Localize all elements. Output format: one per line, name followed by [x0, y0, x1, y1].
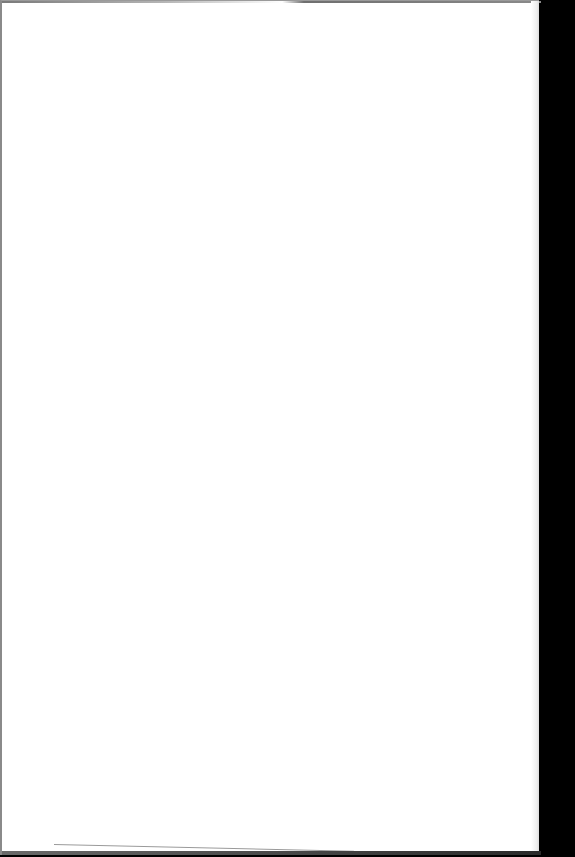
scan-background	[0, 0, 575, 857]
page-bottom-edge	[2, 851, 541, 855]
page-top-edge	[2, 1, 541, 3]
page-right-edge	[531, 1, 539, 855]
blank-page	[0, 0, 539, 855]
